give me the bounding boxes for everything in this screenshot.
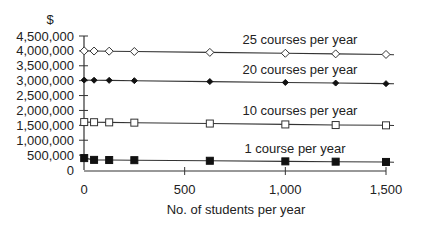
x-axis: 05001,0001,500 — [80, 167, 402, 197]
x-tick-label: 0 — [80, 182, 87, 197]
series-1-course-per-year: 1 course per year — [81, 141, 394, 165]
series-label: 20 courses per year — [243, 62, 359, 77]
data-point — [106, 119, 113, 126]
data-point — [81, 77, 87, 83]
data-point — [105, 47, 113, 55]
data-point — [106, 77, 112, 83]
y-tick-label: 2,500,000 — [16, 88, 74, 103]
data-point — [206, 120, 213, 127]
data-point — [383, 158, 390, 165]
y-tick-label: 3,000,000 — [16, 73, 74, 88]
data-point — [131, 157, 138, 164]
y-tick-label: 3,500,000 — [16, 58, 74, 73]
series-label: 10 courses per year — [243, 103, 359, 118]
y-tick-label: 1,500,000 — [16, 118, 74, 133]
data-point — [332, 158, 339, 165]
y-tick-label: 1,000,000 — [16, 133, 74, 148]
data-point — [333, 80, 339, 86]
data-point — [207, 79, 213, 85]
data-point — [281, 49, 289, 57]
y-tick-label: 2,000,000 — [16, 103, 74, 118]
data-point — [90, 47, 98, 55]
series-20-courses-per-year: 20 courses per year — [81, 62, 394, 87]
data-point — [282, 158, 289, 165]
data-point — [206, 157, 213, 164]
data-point — [206, 48, 214, 56]
data-point — [131, 78, 137, 84]
series-group: 25 courses per year20 courses per year10… — [80, 32, 394, 165]
y-tick-label: 0 — [67, 163, 74, 178]
y-tick-label: 4,000,000 — [16, 43, 74, 58]
data-point — [91, 156, 98, 163]
x-tick-label: 500 — [174, 182, 196, 197]
data-point — [383, 81, 389, 87]
y-axis-label: $ — [46, 12, 54, 27]
x-tick-label: 1,500 — [370, 182, 403, 197]
data-point — [131, 119, 138, 126]
data-point — [332, 50, 340, 58]
series-label: 25 courses per year — [243, 32, 359, 47]
x-axis-label: No. of students per year — [167, 202, 306, 217]
data-point — [332, 122, 339, 129]
y-tick-label: 500,000 — [27, 148, 74, 163]
data-point — [81, 119, 88, 126]
line-chart: 0500,0001,000,0001,500,0002,000,0002,500… — [0, 0, 422, 228]
data-point — [282, 121, 289, 128]
data-point — [383, 122, 390, 129]
data-point — [91, 77, 97, 83]
data-point — [282, 79, 288, 85]
data-point — [80, 47, 88, 55]
series-10-courses-per-year: 10 courses per year — [81, 103, 394, 129]
series-25-courses-per-year: 25 courses per year — [80, 32, 394, 58]
series-label: 1 course per year — [244, 141, 346, 156]
data-point — [382, 50, 390, 58]
data-point — [130, 47, 138, 55]
data-point — [91, 119, 98, 126]
data-point — [81, 155, 88, 162]
y-tick-label: 4,500,000 — [16, 29, 74, 44]
data-point — [106, 157, 113, 164]
y-axis: 0500,0001,000,0001,500,0002,000,0002,500… — [16, 29, 88, 178]
x-tick-label: 1,000 — [269, 182, 302, 197]
